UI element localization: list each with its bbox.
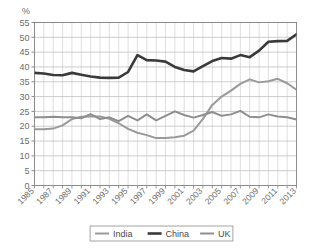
- y-axis-tick-label: 5: [24, 166, 29, 176]
- y-axis-tick-label: 50: [19, 33, 29, 43]
- svg-text:1985: 1985: [15, 186, 36, 207]
- x-axis-tick-label: 1999: [146, 186, 167, 207]
- svg-text:1995: 1995: [109, 186, 130, 207]
- x-axis-tick-label: 2009: [240, 186, 261, 207]
- x-axis-tick-label: 1989: [53, 186, 74, 207]
- svg-text:1987: 1987: [34, 186, 55, 207]
- svg-text:1999: 1999: [146, 186, 167, 207]
- legend-label-uk: UK: [218, 229, 231, 239]
- line-chart: 0510152025303540455055 19851987198919911…: [0, 0, 309, 249]
- x-axis-tick-label: 1997: [128, 186, 149, 207]
- grid-layer: [35, 23, 297, 186]
- svg-text:2007: 2007: [221, 186, 242, 207]
- x-axis-tick-label: 1995: [109, 186, 130, 207]
- legend-label-china: China: [166, 229, 190, 239]
- svg-text:2001: 2001: [165, 186, 186, 207]
- y-axis-unit-label: %: [22, 6, 30, 16]
- y-axis-tick-label: 10: [19, 151, 29, 161]
- svg-text:2011: 2011: [259, 186, 279, 206]
- y-axis-tick-label: 15: [19, 136, 29, 146]
- y-axis-tick-label: 30: [19, 92, 29, 102]
- y-axis-tick-label: 25: [19, 107, 29, 117]
- y-axis-tick-label: 20: [19, 121, 29, 131]
- x-axis-tick-label: 1985: [15, 186, 36, 207]
- legend-label-india: India: [113, 229, 133, 239]
- svg-text:2013: 2013: [277, 186, 298, 207]
- x-axis-tick-label: 1991: [72, 186, 93, 207]
- y-axis-tick-label: 55: [19, 18, 29, 28]
- x-axis-tick-label: 2001: [165, 186, 186, 207]
- x-axis-tick-label: 2003: [184, 186, 205, 207]
- chart-container: 0510152025303540455055 19851987198919911…: [0, 0, 309, 249]
- y-axis-tick-label: 45: [19, 47, 29, 57]
- svg-text:1991: 1991: [72, 186, 93, 207]
- y-axis-tick-label: 35: [19, 77, 29, 87]
- svg-text:1989: 1989: [53, 186, 74, 207]
- svg-text:2003: 2003: [184, 186, 205, 207]
- x-axis-tick-label: 1987: [34, 186, 55, 207]
- svg-text:1997: 1997: [128, 186, 149, 207]
- x-axis-tick-label: 2013: [277, 186, 298, 207]
- svg-text:2009: 2009: [240, 186, 261, 207]
- x-axis-tick-label: 2011: [259, 186, 279, 206]
- svg-text:2005: 2005: [203, 186, 224, 207]
- y-axis-tick-label: 40: [19, 62, 29, 72]
- x-axis-tick-labels: 1985198719891991199319951997199920012003…: [15, 186, 298, 207]
- chart-legend: IndiaChinaUK: [90, 226, 233, 241]
- svg-text:1993: 1993: [90, 186, 111, 207]
- y-axis-tick-labels: 0510152025303540455055: [19, 18, 29, 191]
- x-axis-tick-label: 1993: [90, 186, 111, 207]
- x-axis-tick-label: 2007: [221, 186, 242, 207]
- x-axis-tick-label: 2005: [203, 186, 224, 207]
